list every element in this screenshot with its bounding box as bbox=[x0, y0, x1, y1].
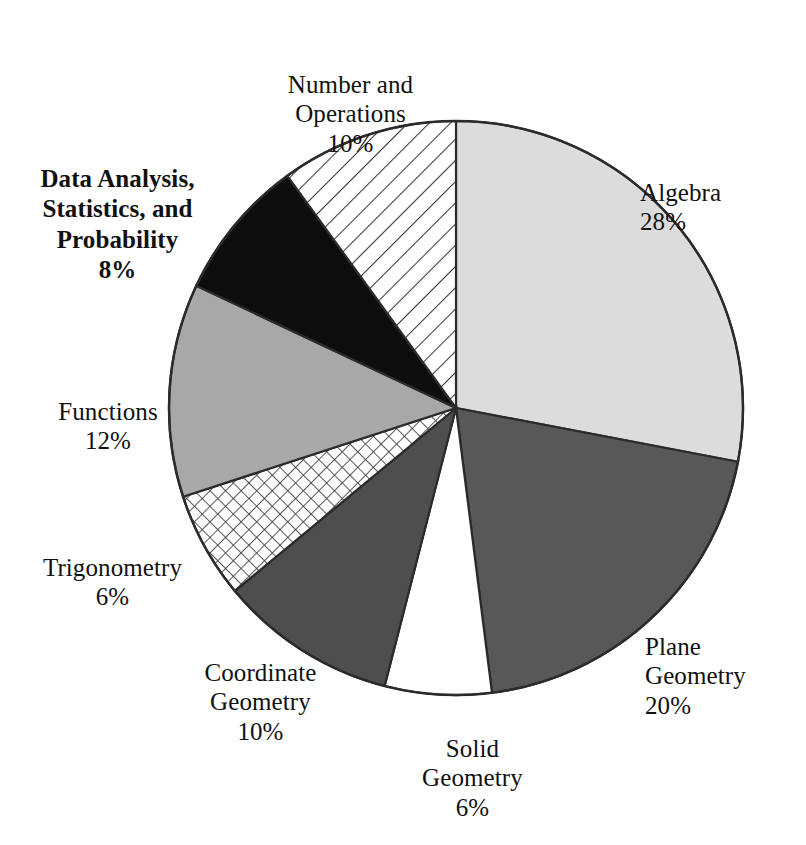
pie-chart: Number and Operations 10% Data Analysis,… bbox=[0, 0, 806, 845]
slice-label-data-analysis: Data Analysis, Statistics, and Probabili… bbox=[10, 133, 225, 316]
slice-label-percent: 10% bbox=[153, 717, 368, 747]
slice-label-percent: 10% bbox=[243, 129, 458, 159]
slice-label-plane-geometry: Plane Geometry 20% bbox=[645, 602, 800, 750]
slice-label-percent: 6% bbox=[10, 582, 215, 612]
slice-label-percent: 28% bbox=[640, 207, 800, 237]
slice-label-algebra: Algebra 28% bbox=[640, 148, 800, 266]
slice-label-functions: Functions 12% bbox=[8, 367, 208, 485]
slice-label-text: Solid Geometry bbox=[422, 735, 523, 792]
slice-label-text: Number and Operations bbox=[288, 71, 413, 128]
slice-label-text: Algebra bbox=[640, 179, 721, 206]
slice-label-text: Trigonometry bbox=[43, 554, 182, 581]
slice-label-number-operations: Number and Operations 10% bbox=[243, 40, 458, 188]
slice-label-percent: 12% bbox=[8, 426, 208, 456]
slice-label-text: Data Analysis, Statistics, and Probabili… bbox=[40, 165, 194, 253]
slice-label-percent: 20% bbox=[645, 691, 800, 721]
slice-label-percent: 6% bbox=[385, 793, 560, 823]
slice-label-coordinate-geometry: Coordinate Geometry 10% bbox=[153, 628, 368, 776]
slice-label-text: Plane Geometry bbox=[645, 633, 746, 690]
slice-label-text: Coordinate Geometry bbox=[204, 659, 316, 716]
slice-label-trigonometry: Trigonometry 6% bbox=[10, 523, 215, 641]
slice-label-solid-geometry: Solid Geometry 6% bbox=[385, 704, 560, 845]
slice-label-text: Functions bbox=[58, 398, 158, 425]
slice-label-percent: 8% bbox=[10, 255, 225, 286]
